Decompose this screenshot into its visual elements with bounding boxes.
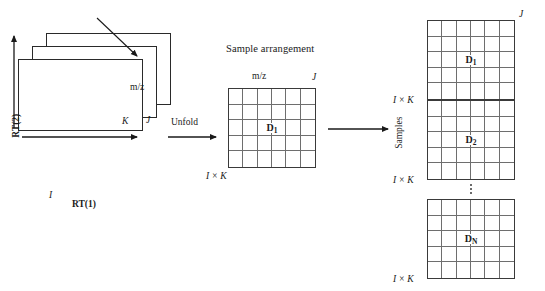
grid-cell: [500, 68, 514, 84]
grid-cell: [428, 262, 442, 278]
grid-cell: [243, 120, 257, 136]
grid-cell: [471, 21, 485, 37]
grid-cell: [442, 101, 456, 117]
grid-cell: [485, 216, 499, 232]
grid-cell: [485, 247, 499, 263]
grid-cell: [471, 117, 485, 133]
grid-cell: [457, 262, 471, 278]
grid-cell: [258, 89, 272, 105]
rt1-axis-label: RT(1): [72, 200, 96, 210]
matrix-label-r-d2: D2: [464, 135, 479, 145]
cube-dim-i: I: [49, 191, 52, 201]
grid-cell: [286, 136, 300, 152]
continuation-ellipsis: [466, 182, 476, 196]
grid-cell: [258, 105, 272, 121]
grid-cell: [442, 148, 456, 164]
grid-cell: [243, 105, 257, 121]
grid-cell: [442, 231, 456, 247]
grid-cell: [442, 52, 456, 68]
grid-cell: [428, 83, 442, 99]
grid-cell: [428, 231, 442, 247]
grid-cell: [485, 132, 499, 148]
grid-cell: [457, 216, 471, 232]
grid-cell: [229, 105, 243, 121]
grid-cell: [485, 200, 499, 216]
grid-cell: [471, 68, 485, 84]
middle-dim-ik: I × K: [206, 172, 227, 182]
grid-cell: [500, 83, 514, 99]
grid-cell: [272, 136, 286, 152]
grid-cell: [428, 216, 442, 232]
grid-cell: [500, 262, 514, 278]
grid-cell: [500, 52, 514, 68]
middle-dim-j: J: [312, 73, 316, 83]
grid-cell: [286, 151, 300, 167]
grid-cell: [500, 21, 514, 37]
grid-cell: [485, 163, 499, 179]
grid-cell: [457, 163, 471, 179]
unfold-arrow: [168, 130, 228, 146]
grid-cell: [485, 148, 499, 164]
grid-cell: [457, 101, 471, 117]
figure-canvas: RT(2) RT(1) m/z I K J Unfold Sample arra…: [0, 0, 545, 291]
grid-cell: [442, 83, 456, 99]
grid-cell: [457, 247, 471, 263]
grid-cell: [485, 21, 499, 37]
grid-cell: [471, 163, 485, 179]
grid-cell: [301, 105, 315, 121]
right-dim-j-top: J: [519, 10, 523, 20]
grid-cell: [243, 151, 257, 167]
grid-cell: [500, 216, 514, 232]
grid-cell: [428, 117, 442, 133]
grid-cell: [457, 148, 471, 164]
grid-cell: [457, 83, 471, 99]
grid-cell: [485, 83, 499, 99]
right-dim-ik-n: I × K: [393, 275, 414, 285]
grid-cell: [485, 262, 499, 278]
grid-cell: [442, 247, 456, 263]
grid-cell: [428, 163, 442, 179]
grid-cell: [272, 151, 286, 167]
matrix-label-r-dn-sub: N: [472, 237, 477, 246]
right-dim-ik-2: I × K: [393, 176, 414, 186]
grid-cell: [442, 132, 456, 148]
grid-cell: [485, 101, 499, 117]
grid-cell: [229, 89, 243, 105]
grid-cell: [286, 105, 300, 121]
grid-cell: [500, 117, 514, 133]
grid-cell: [471, 262, 485, 278]
three-way-data-cube: [0, 0, 185, 130]
grid-cell: [272, 105, 286, 121]
grid-cell: [301, 89, 315, 105]
matrix-label-r-dn: DN: [463, 234, 480, 244]
grid-cell: [485, 117, 499, 133]
grid-cell: [442, 216, 456, 232]
grid-cell: [428, 52, 442, 68]
grid-cell: [457, 37, 471, 53]
sample-arrangement-title: Sample arrangement: [226, 44, 314, 55]
grid-cell: [258, 151, 272, 167]
grid-cell: [471, 83, 485, 99]
grid-cell: [471, 101, 485, 117]
grid-cell: [485, 52, 499, 68]
grid-cell: [500, 200, 514, 216]
grid-cell: [286, 89, 300, 105]
grid-cell: [471, 37, 485, 53]
grid-cell: [229, 136, 243, 152]
matrix-label-r-d2-sub: 2: [473, 138, 477, 147]
grid-cell: [485, 37, 499, 53]
grid-cell: [500, 101, 514, 117]
grid-cell: [301, 151, 315, 167]
middle-mz-label: m/z: [252, 72, 266, 82]
grid-cell: [286, 120, 300, 136]
grid-cell: [457, 117, 471, 133]
matrix-label-d1: D1: [265, 123, 280, 133]
grid-cell: [272, 89, 286, 105]
grid-cell: [229, 151, 243, 167]
grid-cell: [229, 120, 243, 136]
grid-cell: [428, 132, 442, 148]
grid-cell: [428, 21, 442, 37]
grid-cell: [442, 163, 456, 179]
rt2-axis-arrow: [0, 0, 185, 200]
grid-cell: [428, 247, 442, 263]
